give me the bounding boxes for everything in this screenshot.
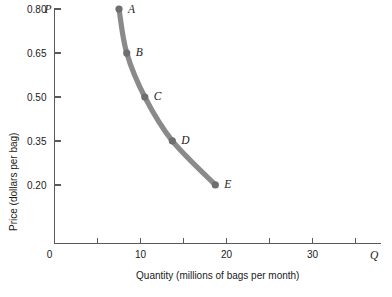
- data-point-label-d: D: [180, 134, 190, 146]
- data-point-c: [141, 93, 148, 100]
- y-axis-symbol: P: [44, 3, 52, 15]
- chart-canvas: 0.200.350.500.650.801020300 ABCDE PQQuan…: [0, 0, 392, 297]
- data-point-a: [115, 6, 122, 13]
- x-tick-label-1: 10: [135, 249, 147, 260]
- y-axis-title: Price (dollars per bag): [8, 133, 19, 231]
- y-tick-label-3: 0.65: [27, 48, 47, 59]
- x-axis-title: Quantity (millions of bags per month): [136, 270, 299, 281]
- tick-labels: 0.200.350.500.650.801020300: [27, 4, 318, 260]
- x-tick-label-3: 20: [221, 249, 233, 260]
- y-tick-label-1: 0.35: [27, 136, 47, 147]
- x-axis-symbol: Q: [370, 249, 379, 261]
- y-tick-label-0: 0.20: [27, 180, 47, 191]
- data-point-label-a: A: [127, 3, 136, 15]
- axis-ticks: [55, 9, 356, 243]
- origin-label: 0: [47, 249, 53, 260]
- axes: [55, 8, 382, 244]
- data-point-b: [123, 49, 130, 56]
- axis-titles: PQQuantity (millions of bags per month)P…: [8, 3, 379, 281]
- demand-curve-line: [119, 9, 215, 185]
- data-point-label-b: B: [136, 46, 143, 58]
- demand-curve-chart: 0.200.350.500.650.801020300 ABCDE PQQuan…: [0, 0, 392, 297]
- data-point-e: [212, 181, 219, 188]
- data-point-d: [169, 137, 176, 144]
- data-points: [115, 6, 219, 189]
- y-tick-label-2: 0.50: [27, 92, 47, 103]
- data-point-label-c: C: [154, 90, 162, 102]
- demand-curve: [119, 9, 215, 185]
- x-tick-label-5: 30: [307, 249, 319, 260]
- data-point-label-e: E: [223, 178, 231, 190]
